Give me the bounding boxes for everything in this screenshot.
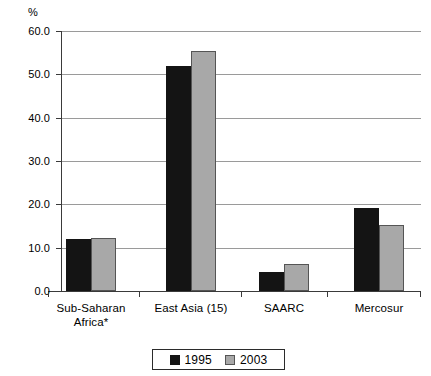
gridline	[61, 118, 421, 119]
bar-1995-saarc	[259, 272, 284, 291]
gridline	[61, 74, 421, 75]
gridline	[61, 161, 421, 162]
y-tick-label: 10.0	[4, 243, 50, 254]
legend-label: 1995	[185, 354, 213, 366]
plot-area	[61, 31, 421, 291]
x-tick-mark	[48, 292, 49, 297]
y-tick-mark	[56, 161, 61, 162]
bar-1995-mercosur	[354, 208, 379, 291]
y-tick-label: 50.0	[4, 69, 50, 80]
legend-item-2003: 2003	[225, 354, 268, 366]
legend-item-1995: 1995	[170, 354, 213, 366]
bar-1995-east-asia-15	[166, 66, 191, 291]
bar-2003-mercosur	[379, 225, 404, 291]
chart-legend: 19952003	[152, 349, 285, 370]
y-tick-label: 0.0	[4, 286, 50, 297]
y-tick-mark	[56, 248, 61, 249]
y-tick-label: 30.0	[4, 156, 50, 167]
x-tick-mark	[327, 292, 328, 297]
y-tick-mark	[56, 118, 61, 119]
x-tick-mark	[420, 292, 421, 297]
gridline	[61, 31, 421, 32]
y-tick-mark	[56, 291, 61, 292]
y-tick-mark	[56, 31, 61, 32]
bar-2003-sub-saharan-africa	[91, 238, 116, 291]
x-tick-mark	[139, 292, 140, 297]
y-tick-label: 20.0	[4, 199, 50, 210]
x-category-label: Mercosur	[319, 301, 431, 315]
gridline	[61, 204, 421, 205]
y-tick-mark	[56, 74, 61, 75]
x-category-label-line: Mercosur	[319, 301, 431, 315]
y-axis-line	[61, 31, 62, 292]
bar-2003-saarc	[284, 264, 309, 291]
x-category-label-line: Africa*	[31, 315, 151, 329]
bar-chart: % 0.010.020.030.040.050.060.0 Sub-Sahara…	[0, 0, 431, 376]
bar-2003-east-asia-15	[191, 51, 216, 291]
x-axis-line	[48, 291, 421, 292]
y-tick-mark	[56, 204, 61, 205]
legend-swatch-icon	[225, 355, 235, 365]
y-axis-unit-label: %	[28, 6, 38, 18]
legend-label: 2003	[240, 354, 268, 366]
x-tick-mark	[241, 292, 242, 297]
bar-1995-sub-saharan-africa	[66, 239, 91, 291]
legend-swatch-icon	[170, 355, 180, 365]
y-tick-label: 40.0	[4, 113, 50, 124]
y-tick-label: 60.0	[4, 26, 50, 37]
